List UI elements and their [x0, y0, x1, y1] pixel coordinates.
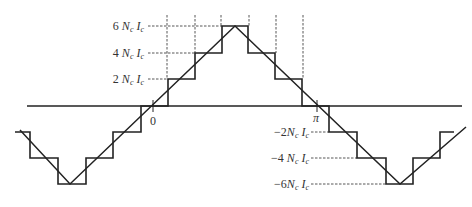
label-neg4NcIc: −4 Nc Ic: [271, 151, 309, 166]
label-4NcIc: 4 Nc Ic: [113, 46, 145, 61]
mmf-staircase-diagram: 6 Nc Ic 4 Nc Ic 2 Nc Ic −2Nc Ic −4 Nc Ic…: [0, 0, 472, 207]
pi-label: π: [313, 111, 320, 125]
vertical-guides: [167, 15, 303, 79]
label-6NcIc: 6 Nc Ic: [113, 19, 145, 34]
triangle-waveform: [20, 26, 466, 184]
label-neg2NcIc: −2Nc Ic: [274, 125, 309, 140]
origin-label: 0: [150, 114, 156, 128]
label-neg6NcIc: −6Nc Ic: [274, 177, 309, 192]
label-2NcIc: 2 Nc Ic: [113, 72, 145, 87]
staircase-waveform: [15, 26, 454, 184]
